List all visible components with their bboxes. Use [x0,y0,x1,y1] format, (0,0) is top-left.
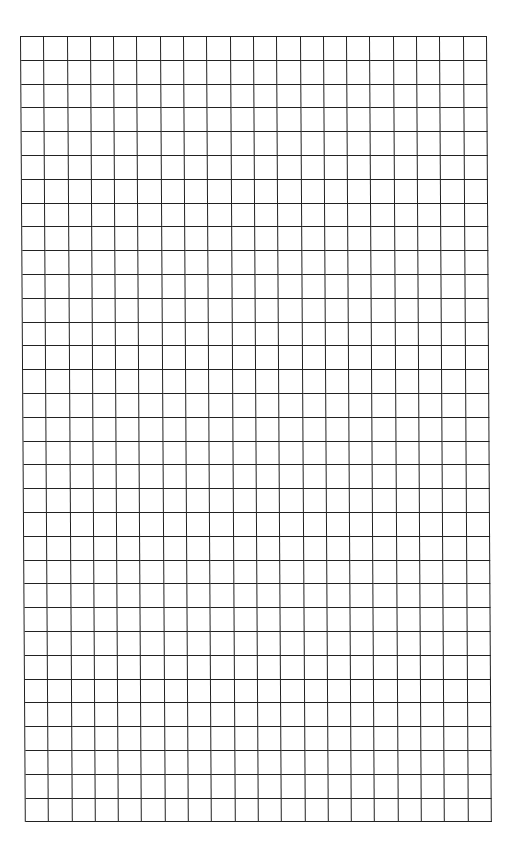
grid-cell [231,61,254,85]
grid-cell [465,251,488,275]
grid-cell [352,751,375,775]
grid-cell [141,632,164,656]
grid-cell [69,299,92,323]
grid-cell [141,680,164,704]
grid-cell [372,299,395,323]
grid-cell [282,799,305,823]
grid-cell [95,751,118,775]
grid-cell [420,561,443,585]
grid-cell [24,537,47,561]
grid-cell [46,370,69,394]
grid-cell [468,680,491,704]
grid-cell [46,251,69,275]
grid-cell [189,799,212,823]
grid-cell [163,323,186,347]
grid-cell [25,656,48,680]
grid-cell [350,465,373,489]
grid-cell [141,584,164,608]
grid-cell [279,275,302,299]
grid-cell [326,465,349,489]
grid-cell [443,394,466,418]
grid-cell [258,751,281,775]
grid-cell [115,227,138,251]
grid-cell [375,703,398,727]
grid-cell [396,442,419,466]
grid-cell [187,513,210,537]
grid-cell [116,346,139,370]
grid-cell [116,251,139,275]
grid-cell [231,108,254,132]
grid-cell [302,275,325,299]
grid-cell [349,418,372,442]
grid-cell [186,370,209,394]
grid-cell [92,227,115,251]
grid-cell [69,204,92,228]
grid-cell [26,775,49,799]
grid-cell [185,180,208,204]
grid-cell [444,632,467,656]
grid-cell [187,584,210,608]
grid-cell [467,608,490,632]
grid-cell [419,370,442,394]
grid-cell [396,323,419,347]
grid-cell [254,61,277,85]
grid-cell [72,775,95,799]
grid-cell [395,275,418,299]
grid-cell [468,727,491,751]
grid-cell [254,85,277,109]
grid-cell [45,156,68,180]
grid-cell [164,608,187,632]
grid-cell [441,85,464,109]
grid-cell [94,537,117,561]
grid-cell [305,751,328,775]
grid-cell [186,323,209,347]
grid-cell [281,656,304,680]
grid-cell [95,632,118,656]
grid-cell [140,394,163,418]
grid-cell [163,442,186,466]
grid-cell [302,346,325,370]
grid-cell [301,37,324,61]
grid-cell [373,442,396,466]
grid-cell [95,775,118,799]
grid-cell [278,132,301,156]
grid-cell [185,204,208,228]
grid-cell [161,132,184,156]
grid-cell [464,61,487,85]
grid-cell [209,275,232,299]
grid-cell [163,465,186,489]
grid-cell [187,489,210,513]
grid-cell [235,727,258,751]
grid-cell [373,465,396,489]
grid-cell [422,775,445,799]
grid-cell [279,346,302,370]
grid-cell [464,156,487,180]
grid-cell [442,299,465,323]
grid-cell [350,442,373,466]
grid-cell [281,703,304,727]
grid-cell [302,299,325,323]
grid-cell [348,180,371,204]
grid-cell [258,775,281,799]
grid-cell [282,751,305,775]
grid-cell [93,394,116,418]
grid-cell [94,561,117,585]
grid-cell [210,418,233,442]
grid-cell [442,323,465,347]
grid-cell [68,108,91,132]
grid-cell [69,323,92,347]
grid-cell [117,561,140,585]
grid-cell [256,394,279,418]
grid-cell [374,608,397,632]
grid-cell [233,418,256,442]
grid-cell [277,37,300,61]
grid-cell [208,85,231,109]
grid-cell [23,370,46,394]
grid-cell [304,656,327,680]
grid-cell [69,346,92,370]
grid-cell [420,584,443,608]
grid-cell [141,656,164,680]
grid-cell [418,132,441,156]
grid-cell [443,513,466,537]
grid-cell [397,561,420,585]
